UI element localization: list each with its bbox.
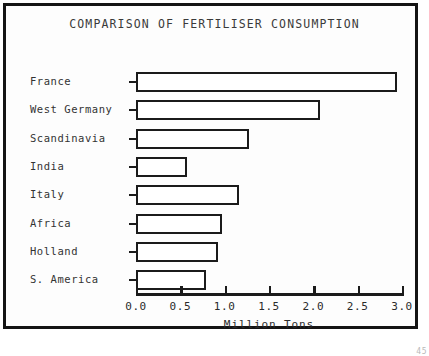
x-axis-tick bbox=[180, 286, 182, 295]
bar bbox=[136, 185, 239, 205]
bar bbox=[136, 242, 218, 262]
category-tick-icon bbox=[129, 166, 136, 168]
x-axis-tick bbox=[358, 286, 360, 295]
x-axis-tick bbox=[225, 286, 227, 295]
category-tick-icon bbox=[129, 251, 136, 253]
bar bbox=[136, 157, 187, 177]
category-label: Holland bbox=[30, 245, 126, 257]
plot-area: FranceWest GermanyScandinaviaIndiaItalyA… bbox=[0, 0, 429, 356]
category-label: Scandinavia bbox=[30, 132, 126, 144]
x-axis-title: Million Tons bbox=[136, 318, 402, 331]
x-axis-tick bbox=[136, 286, 138, 295]
category-label: West Germany bbox=[30, 103, 126, 115]
category-tick-icon bbox=[129, 223, 136, 225]
x-axis-tick bbox=[269, 286, 271, 295]
category-tick-icon bbox=[129, 279, 136, 281]
category-label: India bbox=[30, 160, 126, 172]
bar bbox=[136, 214, 222, 234]
bar bbox=[136, 72, 397, 92]
x-axis-tick-label: 2.0 bbox=[288, 300, 338, 313]
bar bbox=[136, 129, 249, 149]
x-axis-tick bbox=[402, 286, 404, 295]
x-axis-tick-label: 3.0 bbox=[377, 300, 427, 313]
x-axis-tick-label: 2.5 bbox=[333, 300, 383, 313]
bar bbox=[136, 100, 320, 120]
category-label: Italy bbox=[30, 188, 126, 200]
chart-page: COMPARISON OF FERTILISER CONSUMPTION Fra… bbox=[0, 0, 429, 356]
x-axis-tick-label: 0.0 bbox=[111, 300, 161, 313]
x-axis-tick-label: 1.5 bbox=[244, 300, 294, 313]
category-tick-icon bbox=[129, 194, 136, 196]
category-tick-icon bbox=[129, 109, 136, 111]
x-axis-tick bbox=[313, 286, 315, 295]
bar bbox=[136, 270, 206, 290]
category-label: S. America bbox=[30, 273, 126, 285]
category-tick-icon bbox=[129, 81, 136, 83]
category-label: France bbox=[30, 75, 126, 87]
x-axis-tick-label: 1.0 bbox=[200, 300, 250, 313]
category-tick-icon bbox=[129, 138, 136, 140]
category-label: Africa bbox=[30, 217, 126, 229]
x-axis-tick-label: 0.5 bbox=[155, 300, 205, 313]
page-number: 45 bbox=[416, 347, 427, 356]
